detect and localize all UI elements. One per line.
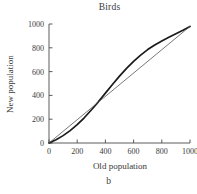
y-axis-tick-labels: 02004006008001000 bbox=[28, 20, 44, 148]
y-axis-ticks bbox=[49, 24, 53, 143]
x-tick-label: 600 bbox=[128, 147, 140, 156]
y-tick-label: 600 bbox=[32, 68, 44, 77]
y-tick-label: 1000 bbox=[28, 20, 44, 29]
x-tick-label: 1000 bbox=[182, 147, 197, 156]
x-tick-label: 400 bbox=[99, 147, 111, 156]
y-tick-label: 800 bbox=[32, 44, 44, 53]
data-series-group bbox=[49, 26, 190, 143]
y-tick-label: 200 bbox=[32, 115, 44, 124]
x-axis-ticks bbox=[49, 140, 190, 144]
y-tick-label: 0 bbox=[40, 139, 44, 148]
y-tick-label: 400 bbox=[32, 91, 44, 100]
x-axis-label: Old population bbox=[93, 161, 148, 171]
x-tick-label: 0 bbox=[47, 147, 51, 156]
chart-plot-area: 02004006008001000 02004006008001000 New … bbox=[0, 0, 197, 194]
panel-caption: b bbox=[0, 176, 197, 186]
y-axis-label: New population bbox=[5, 55, 15, 113]
x-tick-label: 200 bbox=[71, 147, 83, 156]
bird-population-figure: Birds 02004006008001000 0200400600800100… bbox=[0, 0, 197, 194]
x-axis-tick-labels: 02004006008001000 bbox=[47, 147, 197, 156]
x-tick-label: 800 bbox=[156, 147, 168, 156]
data-series-line bbox=[49, 26, 190, 143]
